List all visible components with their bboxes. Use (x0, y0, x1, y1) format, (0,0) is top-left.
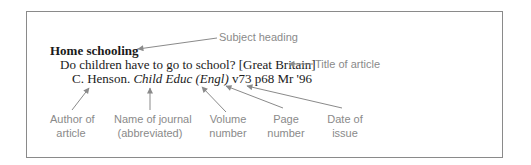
arrow-page (226, 86, 283, 108)
label-page: Page number (266, 112, 306, 140)
label-subject-heading: Subject heading (219, 30, 298, 44)
label-date: Date of issue (325, 112, 365, 140)
arrow-author (72, 88, 89, 110)
arrow-date (247, 86, 342, 108)
label-author: Author of article (50, 112, 92, 140)
arrow-volume (202, 87, 226, 112)
label-title-of-article: Title of article (315, 57, 380, 71)
label-volume: Volume number (208, 112, 248, 140)
label-journal: Name of journal (abbreviated) (114, 112, 186, 140)
arrow-subject-heading (138, 38, 217, 49)
annotation-arrows (0, 0, 531, 165)
